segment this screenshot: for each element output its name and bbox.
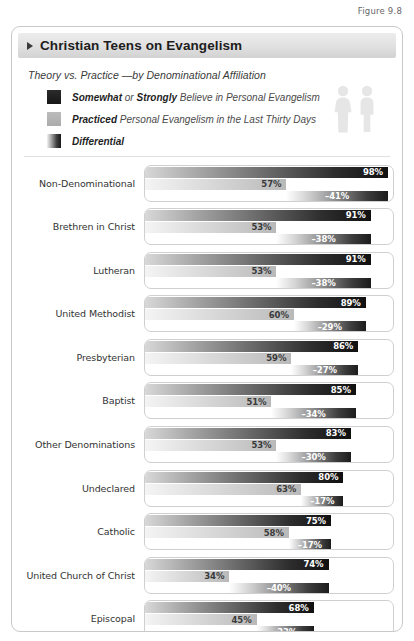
bar-differential: –34% — [271, 408, 355, 419]
bar-value-belief: 75% — [306, 517, 331, 526]
page-title: Christian Teens on Evangelism — [40, 38, 242, 53]
bar-belief: 68% — [145, 602, 314, 613]
bar-practiced: 34% — [145, 571, 229, 582]
legend-swatch-practiced — [47, 112, 61, 126]
bar-value-differential: –29% — [318, 323, 342, 332]
bar-value-differential: –30% — [302, 453, 326, 462]
bar-value-belief: 85% — [331, 386, 356, 395]
bar-belief: 98% — [145, 167, 388, 178]
chart-row: Other Denominations83%53%–30% — [18, 426, 394, 464]
bar-value-differential: –27% — [313, 366, 337, 375]
bar-value-practiced: 53% — [251, 441, 276, 450]
row-category-label: Undeclared — [18, 483, 144, 494]
bar-value-differential: –40% — [267, 584, 291, 593]
bar-value-practiced: 34% — [204, 572, 229, 581]
chart-card: Christian Teens on Evangelism Theory vs.… — [11, 26, 403, 632]
chart-rows: Non-Denominational98%57%–41%Brethren in … — [12, 157, 402, 632]
bar-differential: –27% — [291, 365, 358, 376]
bar-practiced: 60% — [145, 309, 294, 320]
bar-differential: –41% — [286, 191, 388, 202]
chart-row: Baptist85%51%–34% — [18, 382, 394, 420]
chart-row: Presbyterian86%59%–27% — [18, 338, 394, 376]
legend-swatch-belief — [47, 90, 61, 104]
row-bar-track: 89%60%–29% — [144, 295, 394, 332]
row-category-label: Catholic — [18, 526, 144, 537]
row-bar-track: 74%34%–40% — [144, 557, 394, 594]
legend-label-practiced: Practiced Personal Evangelism in the Las… — [72, 114, 316, 125]
bar-practiced: 53% — [145, 266, 276, 277]
legend-swatch-differential — [47, 134, 61, 148]
bar-practiced: 53% — [145, 222, 276, 233]
chart-row: Undeclared80%63%–17% — [18, 469, 394, 507]
row-category-label: Non-Denominational — [18, 178, 144, 189]
bar-differential: –38% — [276, 234, 370, 245]
row-category-label: Brethren in Christ — [18, 221, 144, 232]
bar-practiced: 58% — [145, 527, 289, 538]
bar-value-belief: 83% — [326, 429, 351, 438]
row-bar-track: 98%57%–41% — [144, 165, 394, 202]
bar-belief: 85% — [145, 384, 356, 395]
bar-value-differential: –34% — [302, 410, 326, 419]
row-category-label: Other Denominations — [18, 439, 144, 450]
legend-item-differential: Differential — [47, 134, 392, 148]
chart-row: Episcopal68%45%–23% — [18, 600, 394, 632]
bar-practiced: 59% — [145, 353, 291, 364]
figure-label: Figure 9.8 — [358, 6, 402, 16]
bar-value-belief: 89% — [341, 299, 366, 308]
bar-value-practiced: 53% — [251, 223, 276, 232]
chart-row: Brethren in Christ91%53%–38% — [18, 208, 394, 246]
row-bar-track: 75%58%–17% — [144, 513, 394, 550]
bar-value-belief: 91% — [346, 211, 371, 220]
row-bar-track: 68%45%–23% — [144, 600, 394, 632]
bar-value-differential: –17% — [298, 541, 322, 550]
bar-differential: –40% — [229, 583, 328, 594]
bar-differential: –17% — [301, 496, 343, 507]
bar-value-belief: 86% — [333, 342, 358, 351]
chart-subtitle: Theory vs. Practice —by Denominational A… — [28, 69, 392, 81]
bar-value-belief: 98% — [363, 168, 388, 177]
bar-value-belief: 91% — [346, 255, 371, 264]
bar-belief: 89% — [145, 297, 366, 308]
bar-value-belief: 80% — [318, 473, 343, 482]
bar-value-practiced: 58% — [264, 529, 289, 538]
two-people-icon — [328, 84, 382, 134]
legend-label-belief: Somewhat or Strongly Believe in Personal… — [72, 92, 320, 103]
bar-value-practiced: 57% — [261, 180, 286, 189]
bar-practiced: 45% — [145, 614, 257, 625]
bar-value-practiced: 53% — [251, 267, 276, 276]
row-bar-track: 85%51%–34% — [144, 382, 394, 419]
chart-row: Non-Denominational98%57%–41% — [18, 164, 394, 202]
row-category-label: Presbyterian — [18, 352, 144, 363]
bar-belief: 80% — [145, 472, 343, 483]
row-bar-track: 91%53%–38% — [144, 252, 394, 289]
bar-belief: 74% — [145, 559, 329, 570]
bar-belief: 91% — [145, 254, 371, 265]
bar-belief: 86% — [145, 341, 358, 352]
bar-practiced: 63% — [145, 484, 301, 495]
bar-differential: –23% — [257, 626, 314, 632]
row-bar-track: 80%63%–17% — [144, 470, 394, 507]
bar-value-practiced: 60% — [269, 311, 294, 320]
chart-row: United Methodist89%60%–29% — [18, 295, 394, 333]
row-category-label: Baptist — [18, 395, 144, 406]
bar-value-differential: –38% — [311, 235, 335, 244]
legend-section: Theory vs. Practice —by Denominational A… — [12, 58, 402, 148]
bar-value-differential: –23% — [273, 628, 297, 632]
bar-value-practiced: 59% — [266, 354, 291, 363]
bar-differential: –17% — [289, 539, 331, 550]
chart-row: Catholic75%58%–17% — [18, 513, 394, 551]
bar-differential: –38% — [276, 278, 370, 289]
chart-row: United Church of Christ74%34%–40% — [18, 556, 394, 594]
row-category-label: United Methodist — [18, 308, 144, 319]
bar-value-belief: 68% — [289, 604, 314, 613]
bar-practiced: 53% — [145, 440, 276, 451]
bar-differential: –29% — [294, 321, 366, 332]
bar-belief: 91% — [145, 210, 371, 221]
legend-label-differential: Differential — [72, 136, 124, 147]
row-bar-track: 83%53%–30% — [144, 426, 394, 463]
bar-belief: 83% — [145, 428, 351, 439]
row-bar-track: 86%59%–27% — [144, 339, 394, 376]
bar-value-differential: –38% — [311, 279, 335, 288]
bar-value-belief: 74% — [303, 560, 328, 569]
bar-value-differential: –17% — [310, 497, 334, 506]
